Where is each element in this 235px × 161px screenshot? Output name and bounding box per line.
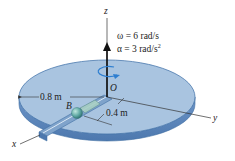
omega-label: ω = 6 rad/s bbox=[117, 31, 159, 41]
x-axis-label: x bbox=[11, 139, 17, 149]
omega-arrowhead bbox=[103, 42, 111, 51]
alpha-label: α = 3 rad/s2 bbox=[117, 43, 161, 54]
z-axis-label: z bbox=[103, 6, 108, 16]
x-axis bbox=[20, 135, 40, 144]
svg-text:0.4 m: 0.4 m bbox=[106, 108, 128, 118]
collar-label: B bbox=[66, 101, 72, 111]
y-axis-label: y bbox=[212, 113, 218, 123]
collar-ball bbox=[72, 108, 83, 119]
origin-label: O bbox=[110, 83, 117, 93]
svg-text:0.8 m: 0.8 m bbox=[40, 92, 62, 102]
diagram-canvas: y x z ω = 6 rad/s α = 3 rad/s2 O 0.8 m B… bbox=[0, 0, 235, 161]
